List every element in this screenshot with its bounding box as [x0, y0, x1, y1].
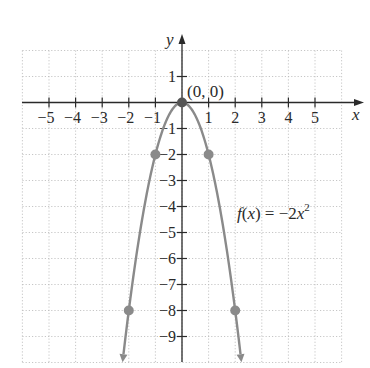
x-tick-label: 1 [205, 109, 213, 126]
function-rhs: ) = −2 [255, 204, 297, 223]
data-point [204, 150, 214, 160]
data-point [230, 306, 240, 316]
data-point [124, 306, 134, 316]
x-axis-title: x [351, 105, 360, 124]
curve-arrow-icon [120, 354, 128, 362]
function-label: f(x) = −2x2 [237, 201, 310, 223]
y-tick-label: −4 [159, 198, 176, 215]
y-tick-label: −3 [159, 172, 176, 189]
y-tick-label: −8 [159, 302, 176, 319]
vertex-label: (0, 0) [187, 82, 224, 101]
x-tick-label: −2 [117, 109, 134, 126]
y-axis-title: y [164, 30, 174, 49]
y-tick-label: −7 [159, 276, 176, 293]
y-tick-label: −9 [159, 328, 176, 345]
x-tick-label: 3 [258, 109, 266, 126]
x-tick-label: 4 [284, 109, 292, 126]
y-tick-label: 1 [168, 68, 176, 85]
function-exponent: 2 [304, 201, 310, 213]
y-axis-arrow-icon [179, 34, 186, 44]
y-tick-label: −2 [159, 146, 176, 163]
curve-arrow-icon [237, 354, 245, 362]
x-tick-label: 2 [231, 109, 239, 126]
parabola-chart: −5−4−3−2−1123451−1−2−3−4−5−6−7−8−9 x y (… [0, 0, 370, 368]
x-tick-label: −4 [64, 109, 81, 126]
data-point [177, 98, 187, 108]
data-point [150, 150, 160, 160]
x-tick-label: 5 [311, 109, 319, 126]
x-tick-label: −3 [91, 109, 108, 126]
y-tick-label: −5 [159, 224, 176, 241]
x-tick-label: −5 [37, 109, 54, 126]
y-tick-label: −6 [159, 250, 176, 267]
